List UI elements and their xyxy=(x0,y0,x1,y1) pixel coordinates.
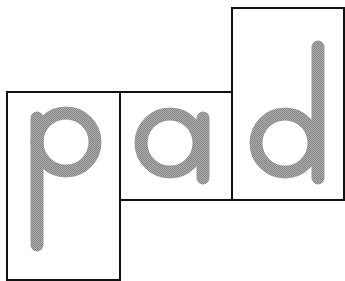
letter-a-glyph xyxy=(141,114,203,178)
letter-d-glyph xyxy=(256,47,318,178)
letter-p-glyph xyxy=(37,113,95,245)
